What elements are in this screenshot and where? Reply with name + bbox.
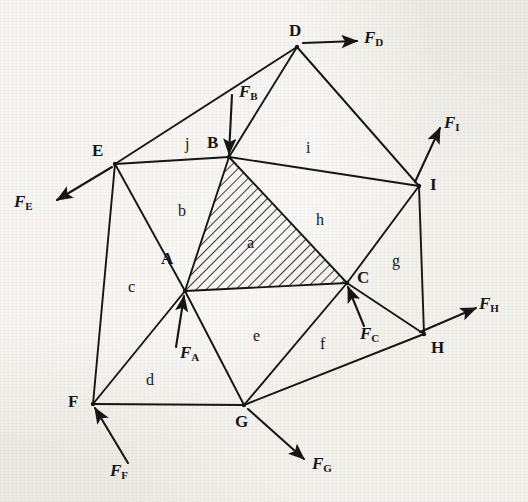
force-label-FH: FH <box>479 295 499 312</box>
force-subscript-FF: F <box>121 469 128 481</box>
force-label-FB: FB <box>239 83 258 100</box>
region-label-b: b <box>178 203 186 219</box>
force-arrow-FH <box>420 308 476 332</box>
force-arrow-FF <box>95 408 128 463</box>
force-subscript-FB: B <box>250 90 257 102</box>
node-label-A: A <box>161 250 173 267</box>
joint-D <box>295 45 299 49</box>
joint-E <box>113 162 117 166</box>
force-subscript-FH: H <box>490 302 499 314</box>
truss-figure-svg <box>0 0 528 502</box>
force-symbol-FG: F <box>312 454 323 473</box>
force-symbol-FF: F <box>110 461 121 480</box>
force-symbol-FC: F <box>360 324 371 343</box>
truss-member-GH <box>244 334 424 405</box>
node-label-C: C <box>357 269 369 286</box>
truss-member-CH <box>347 283 424 334</box>
joint-F <box>91 402 95 406</box>
region-label-g: g <box>392 253 400 269</box>
truss-member-IH <box>419 186 424 334</box>
region-label-d: d <box>146 372 154 388</box>
truss-member-FG <box>93 404 244 405</box>
region-label-a: a <box>247 235 254 251</box>
joint-B <box>227 155 231 159</box>
region-label-f: f <box>320 336 325 352</box>
truss-member-GC <box>244 283 347 405</box>
force-label-FI: FI <box>444 114 460 131</box>
truss-member-AE <box>115 164 185 291</box>
force-arrow-FE <box>57 167 112 200</box>
force-subscript-FE: E <box>25 200 32 212</box>
force-symbol-FA: F <box>180 343 191 362</box>
truss-member-BI <box>229 157 419 186</box>
force-label-FA: FA <box>180 344 199 361</box>
force-label-FF: FF <box>110 462 128 479</box>
region-label-h: h <box>316 212 324 228</box>
joint-A <box>183 289 187 293</box>
node-label-D: D <box>289 22 301 39</box>
joint-H <box>422 332 426 336</box>
force-label-FE: FE <box>14 193 33 210</box>
truss-member-DI <box>297 47 419 186</box>
force-subscript-FI: I <box>455 121 459 133</box>
joint-C <box>345 281 349 285</box>
node-label-F: F <box>68 393 78 410</box>
force-symbol-FB: F <box>239 82 250 101</box>
truss-diagram-canvas: ABCDEFGHIabcdefghijFDFIFHFBFAFCFEFFFG <box>0 0 528 502</box>
node-label-I: I <box>430 176 437 193</box>
force-symbol-FE: F <box>14 192 25 211</box>
force-subscript-FG: G <box>323 462 332 474</box>
force-label-FC: FC <box>360 325 379 342</box>
force-arrow-FI <box>415 128 440 182</box>
node-label-H: H <box>431 339 444 356</box>
node-label-E: E <box>92 142 103 159</box>
region-label-e: e <box>253 328 260 344</box>
node-label-G: G <box>235 413 248 430</box>
truss-member-AF <box>93 291 185 404</box>
region-label-j: j <box>185 136 189 152</box>
force-subscript-FD: D <box>375 36 383 48</box>
force-symbol-FI: F <box>444 113 455 132</box>
truss-member-ED <box>115 47 297 164</box>
region-label-c: c <box>128 279 135 295</box>
force-arrow-FA <box>176 296 184 347</box>
force-symbol-FD: F <box>364 28 375 47</box>
node-label-B: B <box>207 134 218 151</box>
force-arrow-FD <box>303 41 357 43</box>
force-subscript-FA: A <box>191 351 199 363</box>
truss-member-EB <box>115 157 229 164</box>
truss-member-EF <box>93 164 115 404</box>
force-subscript-FC: C <box>371 332 379 344</box>
truss-member-BD <box>229 47 297 157</box>
force-arrow-FB <box>229 95 232 154</box>
joint-G <box>242 403 246 407</box>
force-arrow-FG <box>248 409 304 459</box>
force-symbol-FH: F <box>479 294 490 313</box>
force-label-FD: FD <box>364 29 383 46</box>
joint-I <box>417 184 421 188</box>
region-label-i: i <box>306 140 310 156</box>
force-label-FG: FG <box>312 455 332 472</box>
